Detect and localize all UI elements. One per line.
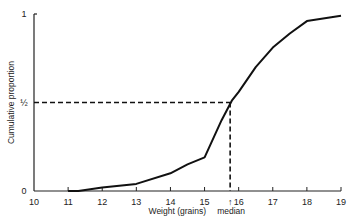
x-tick-label: 11 xyxy=(63,197,72,207)
cumulative-curve xyxy=(68,16,341,191)
cumulative-proportion-chart: 101112131415161718190½1Cumulative propor… xyxy=(0,0,353,224)
y-axis-label: Cumulative proportion xyxy=(6,61,16,144)
x-tick-label: 18 xyxy=(302,197,312,207)
y-tick-label: 1 xyxy=(21,9,26,19)
x-tick-label: 13 xyxy=(131,197,141,207)
y-tick-label: ½ xyxy=(20,98,28,108)
median-label: median xyxy=(217,206,245,216)
x-tick-label: 10 xyxy=(29,197,39,207)
x-tick-label: 17 xyxy=(268,197,278,207)
x-tick-label: 19 xyxy=(336,197,346,207)
y-tick-label: 0 xyxy=(21,186,26,196)
x-tick-label: 12 xyxy=(97,197,107,207)
x-axis-label: Weight (grains) xyxy=(149,206,207,216)
